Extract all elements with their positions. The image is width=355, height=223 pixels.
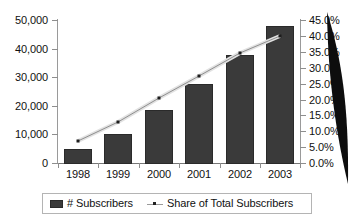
share-line-series [0,0,355,223]
bar-swatch-icon [50,200,63,208]
right-axis-label: 40.0% [309,31,355,42]
right-axis-tick [300,147,306,148]
bar-1998 [64,149,92,164]
left-axis-tick [52,134,58,135]
bar-2003 [266,26,294,164]
legend-label-subscribers: # Subscribers [67,198,133,209]
right-axis-label: 35.0% [309,47,355,58]
right-axis-line [300,19,301,164]
right-axis-label: 25.0% [309,79,355,90]
left-axis-label: 0 [0,158,48,169]
legend-item-subscribers: # Subscribers [50,198,133,209]
left-axis-tick [52,49,58,50]
x-axis-label-2002: 2002 [220,168,260,180]
x-axis-label-2000: 2000 [139,168,179,180]
right-axis-tick [300,36,306,37]
x-axis-label-1998: 1998 [58,168,98,180]
bar-2000 [145,110,173,164]
right-axis-label: 20.0% [309,95,355,106]
right-axis-tick [300,131,306,132]
bar-2001 [185,84,213,164]
right-axis-tick [300,68,306,69]
right-axis-tick [300,115,306,116]
chart-container: 0 10,000 20,000 30,000 40,000 50,000 0.0… [0,0,355,223]
x-axis-label-1999: 1999 [98,168,138,180]
x-axis-label-2003: 2003 [260,168,300,180]
bar-2002 [226,55,254,164]
bar-1999 [104,134,132,164]
x-axis-tick [300,163,301,168]
left-axis-label: 50,000 [0,15,48,26]
left-axis-tick [52,106,58,107]
right-axis-label: 5.0% [309,142,355,153]
legend-item-share: Share of Total Subscribers [147,198,293,209]
left-axis-label: 10,000 [0,129,48,140]
right-axis-tick [300,84,306,85]
right-axis-label: 10.0% [309,126,355,137]
left-axis-label: 40,000 [0,44,48,55]
x-axis-label-2001: 2001 [179,168,219,180]
right-axis-tick [300,100,306,101]
chart-legend: # Subscribers Share of Total Subscribers [42,193,312,214]
left-axis-tick [52,20,58,21]
left-axis-tick [52,77,58,78]
left-axis-label: 30,000 [0,72,48,83]
right-axis-label: 30.0% [309,63,355,74]
right-axis-label: 45.0% [309,15,355,26]
left-axis-label: 20,000 [0,101,48,112]
line-swatch-icon [147,200,163,208]
right-axis-label: 0.0% [309,158,355,169]
right-axis-tick [300,20,306,21]
left-axis-line [57,19,58,164]
right-axis-label: 15.0% [309,110,355,121]
right-axis-tick [300,52,306,53]
legend-label-share: Share of Total Subscribers [167,198,293,209]
